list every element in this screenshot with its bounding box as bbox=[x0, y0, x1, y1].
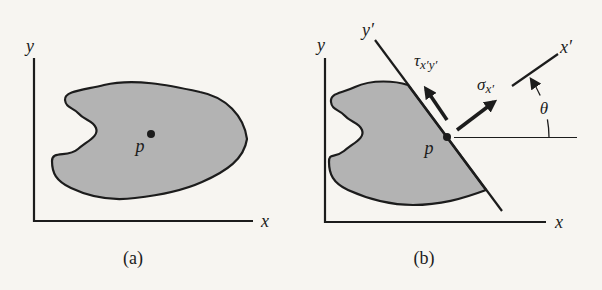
figure-canvas: y x p (a) y x y′ x′ bbox=[0, 0, 602, 290]
y-prime-axis-label: y′ bbox=[360, 20, 375, 40]
panel-a: y x p (a) bbox=[24, 36, 269, 269]
x-prime-axis-label: x′ bbox=[559, 37, 573, 57]
body-outline-b bbox=[329, 82, 486, 206]
point-p-dot-b bbox=[443, 133, 451, 141]
body-outline-a bbox=[52, 82, 247, 199]
stress-at-point-figure: y x p (a) y x y′ x′ bbox=[0, 0, 602, 290]
point-p-label-a: p bbox=[134, 136, 145, 156]
theta-arc-upper bbox=[532, 80, 541, 96]
theta-label: θ bbox=[540, 99, 548, 118]
y-axis-label-a: y bbox=[24, 36, 34, 56]
theta-arc-lower bbox=[547, 119, 549, 137]
x-axis-label-a: x bbox=[260, 211, 269, 231]
normal-stress-arrow bbox=[457, 102, 494, 130]
point-p-dot-a bbox=[147, 130, 155, 138]
caption-a: (a) bbox=[123, 248, 143, 269]
normal-stress-label: σx′ bbox=[477, 75, 494, 96]
panel-b: y x y′ x′ p θ σx′ τx′y′ (b) bbox=[315, 20, 577, 269]
shear-stress-label: τx′y′ bbox=[414, 51, 437, 72]
point-p-label-b: p bbox=[423, 138, 434, 158]
x-axis-label-b: x bbox=[554, 212, 563, 232]
caption-b: (b) bbox=[414, 248, 435, 269]
y-axis-label-b: y bbox=[315, 35, 325, 55]
x-prime-axis-line bbox=[512, 54, 558, 86]
